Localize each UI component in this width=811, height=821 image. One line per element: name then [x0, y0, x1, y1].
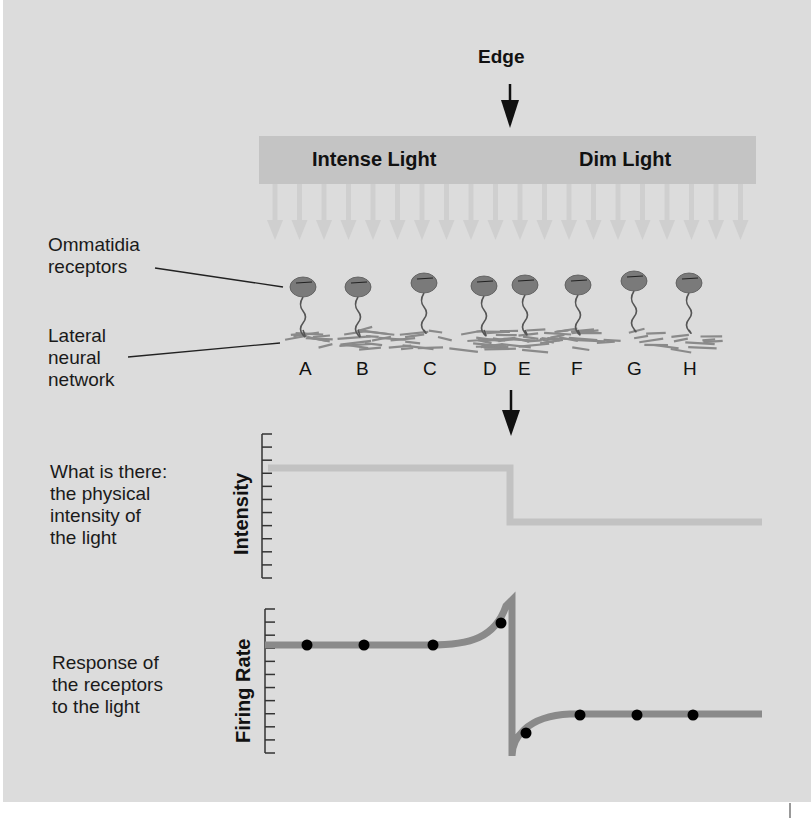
- intensity-line: [268, 468, 762, 522]
- receptor-letter-g: G: [627, 358, 642, 380]
- receptor-letter-a: A: [299, 358, 312, 380]
- intensity-axis-label: Intensity: [230, 473, 253, 555]
- receptor-letter-b: B: [356, 358, 369, 380]
- lateral-network-label: Lateral neural network: [48, 325, 115, 391]
- edge-arrow-icon: [501, 84, 519, 128]
- receptor-letter-c: C: [423, 358, 437, 380]
- firing-rate-axis-label: Firing Rate: [232, 639, 255, 743]
- ommatidia-pointer-line: [155, 268, 283, 287]
- receptor-letter-f: F: [571, 358, 583, 380]
- ommatidia-label: Ommatidia receptors: [48, 234, 140, 278]
- receptor-letter-e: E: [518, 358, 531, 380]
- receptor-letter-d: D: [483, 358, 497, 380]
- down-arrow-icon: [502, 390, 520, 436]
- light-ray-arrows: [267, 184, 749, 240]
- firing-description: Response of the receptors to the light: [52, 652, 163, 718]
- receptor-letter-h: H: [683, 358, 697, 380]
- firing-rate-axis: [265, 609, 275, 753]
- light-source-bar: Intense Light Dim Light: [259, 136, 756, 184]
- dim-light-label: Dim Light: [579, 148, 671, 171]
- firing-rate-points: [302, 618, 699, 739]
- lateral-pointer-line: [128, 343, 280, 357]
- intensity-description: What is there: the physical intensity of…: [50, 461, 167, 549]
- lateral-neural-network: [285, 327, 723, 353]
- ommatidia-receptors: [290, 271, 702, 337]
- intensity-axis: [262, 434, 272, 578]
- intense-light-label: Intense Light: [312, 148, 436, 171]
- firing-rate-curve: [265, 600, 762, 756]
